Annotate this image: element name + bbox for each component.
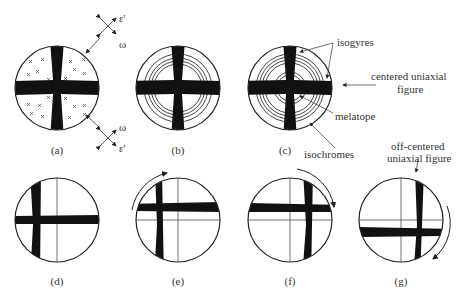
caption-a: (a) bbox=[51, 144, 63, 156]
epsilon-top-label: ε' bbox=[119, 12, 126, 24]
isogyres-label: isogyres bbox=[337, 36, 374, 48]
centered-figure-label-2: figure bbox=[397, 83, 423, 95]
panel-c-figure bbox=[242, 40, 376, 148]
caption-e: (e) bbox=[172, 275, 184, 287]
panel-e-figure bbox=[130, 170, 226, 280]
melatope-label: melatope bbox=[335, 110, 375, 122]
omega-bottom-label: ω bbox=[119, 121, 126, 133]
centered-figure-label-1: centered uniaxial bbox=[371, 70, 446, 82]
isochromes-label: isochromes bbox=[304, 148, 354, 160]
panel-a-figure bbox=[10, 18, 116, 146]
caption-d: (d) bbox=[51, 275, 64, 287]
omega-top-label: ω bbox=[119, 38, 126, 50]
offcentered-figure-label-1: off-centered bbox=[391, 140, 445, 152]
panel-f-figure bbox=[242, 169, 338, 280]
epsilon-bottom-label: ε' bbox=[119, 142, 126, 154]
caption-f: (f) bbox=[285, 275, 296, 287]
panel-d-figure bbox=[10, 170, 100, 280]
caption-b: (b) bbox=[172, 144, 185, 156]
offcentered-figure-label-2: uniaxial figure bbox=[387, 152, 451, 164]
caption-g: (g) bbox=[395, 275, 408, 287]
panel-g-figure bbox=[353, 160, 450, 280]
caption-c: (c) bbox=[279, 144, 291, 156]
panel-b-figure bbox=[130, 40, 221, 140]
